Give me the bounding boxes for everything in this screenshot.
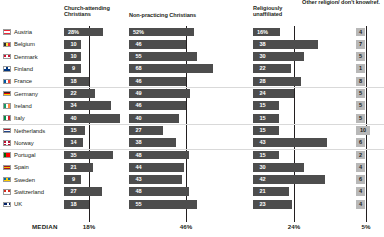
bar: 9 [64, 175, 81, 184]
bar-value-label: 30 [253, 52, 272, 61]
bar-cell: 48 [129, 149, 251, 161]
flag-icon [3, 140, 11, 146]
bar: 42 [253, 175, 325, 184]
column-header-other-religion: Other religion/ don't know/ref. [300, 0, 382, 5]
country-cell: Switzerland [0, 186, 63, 198]
table-row: Netherlands15271510 [0, 124, 384, 136]
bar-cell: 46 [129, 38, 251, 50]
other-religion-value: 5 [356, 114, 365, 123]
bar-cell: 55 [129, 198, 251, 210]
bar: 15 [253, 114, 279, 123]
country-cell: Italy [0, 112, 63, 124]
country-name: Belgium [14, 41, 35, 47]
other-religion-value: 4 [356, 200, 365, 209]
table-row: Switzerland2748214 [0, 186, 384, 198]
other-religion-value: 5 [356, 89, 365, 98]
bar-value-label: 16% [253, 28, 272, 37]
median-value-col1: 18% [74, 223, 104, 230]
bar-value-label: 22 [253, 64, 272, 73]
stacked-religion-bar-chart: Church-attending Christians Non-practici… [0, 0, 384, 237]
median-label: MEDIAN [32, 223, 58, 230]
bar: 49 [129, 89, 190, 98]
bar-value-label: 30 [253, 163, 272, 172]
other-religion-value: 6 [356, 138, 365, 147]
bar: 28% [64, 28, 103, 37]
bar-value-label: 15 [253, 114, 272, 123]
bar-cell: 10 [64, 38, 127, 50]
flag-icon [3, 29, 11, 35]
bar-cell: 46 [129, 100, 251, 112]
country-cell: Spain [0, 161, 63, 173]
bar: 24 [253, 89, 294, 98]
bar-value-label: 28 [253, 77, 272, 86]
country-cell: France [0, 75, 63, 87]
bar-cell: 18 [64, 198, 127, 210]
bar-value-label: 46 [129, 40, 148, 49]
country-name: Netherlands [14, 128, 45, 134]
bar: 40 [64, 114, 120, 123]
flag-icon [3, 66, 11, 72]
bar-value-label: 40 [129, 114, 148, 123]
median-value-col4: 5% [351, 223, 381, 230]
bar-cell: 30 [253, 161, 354, 173]
flag-icon [3, 115, 11, 121]
bar-value-label: 15 [253, 151, 272, 160]
bar-cell: 44 [129, 161, 251, 173]
flag-icon [3, 202, 11, 208]
country-cell: Germany [0, 87, 63, 99]
bar: 30 [253, 163, 304, 172]
other-religion-cell: 4 [356, 26, 382, 38]
bar: 27 [64, 187, 102, 196]
bar: 15 [64, 126, 85, 135]
other-religion-cell: 5 [356, 112, 382, 124]
other-religion-cell: 10 [356, 124, 382, 136]
bar: 14 [64, 138, 83, 147]
bar: 55 [129, 52, 197, 61]
bar-cell: 43 [253, 137, 354, 149]
other-religion-cell: 4 [356, 161, 382, 173]
bar: 21 [64, 163, 93, 172]
bar-value-label: 28% [64, 28, 83, 37]
flag-icon [3, 165, 11, 171]
bar: 44 [129, 163, 184, 172]
bar-value-label: 27 [129, 126, 148, 135]
bar-cell: 15 [253, 149, 354, 161]
bar-value-label: 42 [253, 175, 272, 184]
country-cell: Belgium [0, 38, 63, 50]
bar: 30 [253, 52, 304, 61]
flag-icon [3, 91, 11, 97]
bar-cell: 48 [129, 186, 251, 198]
bar-cell: 21 [64, 161, 127, 173]
country-cell: Ireland [0, 100, 63, 112]
bar-cell: 34 [64, 100, 127, 112]
bar-cell: 15 [253, 100, 354, 112]
bar-value-label: 48 [129, 151, 148, 160]
bar-value-label: 21 [64, 163, 83, 172]
country-name: Portugal [14, 152, 36, 158]
country-cell: Austria [0, 26, 63, 38]
country-name: Ireland [14, 103, 32, 109]
bar: 10 [64, 52, 81, 61]
bar-value-label: 46 [129, 77, 148, 86]
bar-cell: 9 [64, 63, 127, 75]
flag-icon [3, 189, 11, 195]
bar-value-label: 18 [64, 200, 83, 209]
row-separator [0, 87, 384, 88]
bar-cell: 14 [64, 137, 127, 149]
bar-cell: 46 [129, 75, 251, 87]
bar-value-label: 21 [253, 187, 272, 196]
bar-cell: 15 [64, 124, 127, 136]
column-header-church-attending: Church-attending Christians [64, 5, 124, 18]
bar-value-label: 9 [64, 64, 83, 73]
bar-cell: 40 [129, 112, 251, 124]
bar-value-label: 9 [64, 175, 83, 184]
other-religion-value: 5 [356, 52, 365, 61]
bar: 10 [64, 40, 81, 49]
bar: 35 [64, 151, 113, 160]
table-row: Portugal3548152 [0, 149, 384, 161]
bar: 15 [253, 151, 279, 160]
bar: 48 [129, 187, 189, 196]
bar-cell: 52% [129, 26, 251, 38]
bar: 27 [129, 126, 163, 135]
bar: 15 [253, 126, 279, 135]
